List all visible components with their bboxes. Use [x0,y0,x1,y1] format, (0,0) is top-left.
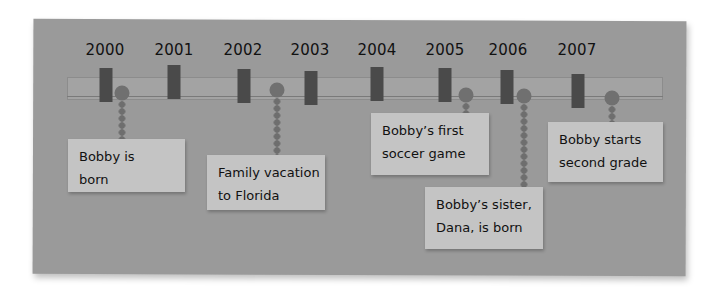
event-card-2007: Bobby startssecond grade [548,122,663,182]
event-card-2000: Bobby isborn [68,139,185,192]
year-label-2007: 2007 [558,41,597,59]
event-text-line2: second grade [559,151,655,174]
event-text-line1: Bobby’s sister, [436,193,535,216]
year-marker-2007 [572,74,585,108]
year-label-2002: 2002 [224,41,263,59]
year-marker-2006 [501,70,514,104]
year-marker-2005 [439,68,452,102]
year-label-2001: 2001 [155,41,194,59]
year-marker-2001 [168,65,181,99]
connector-dots-2002 [274,98,281,155]
event-pin-2002 [270,83,285,98]
event-pin-2006 [517,89,532,104]
year-label-2006: 2006 [489,41,528,59]
event-pin-2000 [115,86,130,101]
connector-dots-2000 [119,101,126,139]
event-text-line1: Family vacation [218,161,317,184]
event-card-2002: Family vacationto Florida [207,155,325,210]
event-card-2005: Bobby’s firstsoccer game [371,113,489,175]
event-text-line2: Dana, is born [436,216,535,239]
event-text-line1: Bobby’s first [382,119,481,142]
event-text-line2: to Florida [218,184,317,207]
year-marker-2002 [238,69,251,103]
event-card-2006: Bobby’s sister,Dana, is born [425,187,543,249]
year-label-2005: 2005 [426,41,465,59]
event-text-line2: born [79,168,177,191]
event-text-line1: Bobby starts [559,128,655,151]
year-marker-2000 [100,68,113,102]
year-label-2003: 2003 [291,41,330,59]
event-pin-2005 [459,88,474,103]
connector-dots-2006 [521,104,528,189]
year-marker-2004 [371,67,384,101]
year-label-2000: 2000 [86,41,125,59]
event-pin-2007 [605,91,620,106]
year-label-2004: 2004 [358,41,397,59]
year-marker-2003 [305,71,318,105]
event-text-line1: Bobby is [79,145,177,168]
event-text-line2: soccer game [382,142,481,165]
connector-dots-2007 [609,106,616,122]
